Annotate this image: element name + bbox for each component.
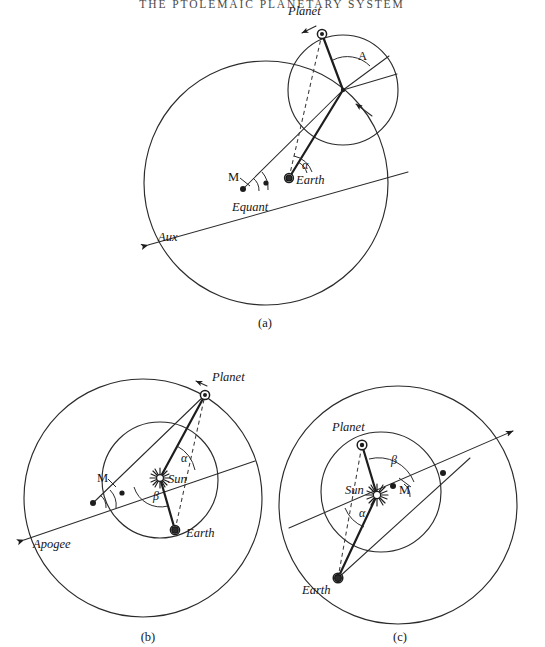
label-earth-c: Earth [301, 583, 330, 597]
sun-icon-c [366, 484, 388, 506]
eccentric-point-b [90, 500, 96, 506]
epicycle-radius-a [322, 34, 343, 90]
earth-icon-c [333, 573, 343, 583]
label-mean-motion-b: M [97, 471, 108, 485]
label-equant-a: Equant [231, 200, 269, 214]
m-label-leader-a [240, 178, 250, 186]
caption-c: (c) [393, 630, 407, 644]
panel-b: Planet α Sun M β Earth Apogee (b) [24, 370, 262, 644]
orbit-center-dot-b [119, 490, 124, 495]
sun-icon-b [150, 468, 170, 488]
earth-to-epicycle-line-a [289, 90, 343, 178]
angle-M-arc2-a [253, 178, 259, 191]
planet-icon-b [200, 390, 209, 399]
planet-motion-arrow-a [302, 26, 316, 33]
label-alpha-a: α [302, 158, 309, 172]
deferent-motion-arrow-a [356, 104, 372, 116]
label-apogee-b: Apogee [32, 537, 71, 551]
earth-to-planet-sight-b [175, 395, 205, 530]
equant-point-a [240, 186, 246, 192]
mean-motion-line-c [338, 458, 470, 578]
panel-c: Planet β Sun M α Earth (c) [279, 386, 517, 644]
label-aux-a: Aux [157, 230, 178, 244]
label-alpha-b: α [181, 451, 188, 465]
epicycle-center-dot-a [341, 88, 345, 92]
label-sun-c: Sun [345, 483, 364, 497]
label-planet-c: Planet [331, 420, 365, 434]
label-alpha-c: α [359, 506, 366, 520]
apogee-line-b [24, 461, 255, 540]
label-apex-angle-a: A [358, 49, 367, 63]
planet-orbit-circle-b [24, 379, 262, 617]
label-planet-a: Planet [287, 4, 321, 18]
mean-point-dot-c [390, 483, 396, 489]
figure-root: THE PTOLEMAIC PLANETARY SYSTEM [0, 0, 545, 647]
label-beta-c: β [390, 453, 397, 467]
label-beta-b: β [152, 489, 159, 503]
page-title: THE PTOLEMAIC PLANETARY SYSTEM [139, 0, 404, 10]
planet-icon-a [317, 29, 326, 38]
planet-orbit-circle-c [321, 432, 441, 552]
panel-a: Planet A M Earth Equant Aux α (a) [144, 4, 408, 330]
apsidal-line-a [148, 172, 408, 245]
mean-motion-line-b [93, 395, 205, 503]
outer-apsidal-dot-c [440, 470, 446, 476]
label-sun-b: Sun [168, 472, 187, 486]
epicycle-reference-arm-2-a [343, 74, 397, 90]
planet-icon-c [357, 440, 367, 450]
caption-b: (b) [141, 630, 156, 644]
label-earth-b: Earth [185, 526, 214, 540]
angle-M-arc-b [110, 490, 116, 508]
planet-motion-arrow-b [196, 381, 207, 386]
equant-to-epicycle-line-a [243, 90, 343, 189]
caption-a: (a) [258, 316, 272, 330]
label-mean-motion-a: M [228, 170, 239, 184]
label-earth-a: Earth [295, 173, 324, 187]
label-planet-b: Planet [211, 370, 245, 384]
label-mean-motion-c: M [399, 483, 410, 497]
m-label-leader-b [108, 479, 116, 487]
sun-to-earth-line-c [338, 495, 377, 578]
ptolemaic-system-figure: THE PTOLEMAIC PLANETARY SYSTEM [0, 0, 545, 647]
earth-icon-a [285, 174, 294, 183]
deferent-center-dot-a [263, 180, 268, 185]
earth-icon-b [170, 525, 179, 534]
